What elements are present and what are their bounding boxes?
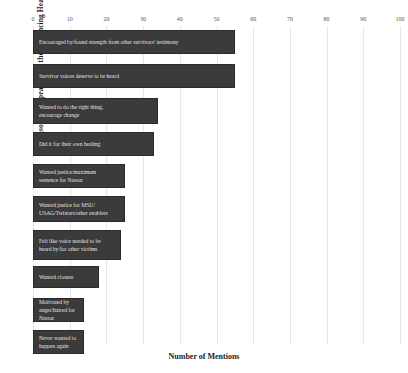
bar-row: Felt like voice needed to be heard by/fo… (33, 230, 400, 260)
bar-label: Wanted justice/maximum sentence for Nass… (34, 168, 99, 184)
gridline-100 (400, 26, 401, 344)
bar-label: Encouraged by/found strength from other … (34, 38, 182, 46)
x-tick-70: 70 (287, 16, 293, 22)
bar-label: Wanted to do the right thing, encourage … (34, 103, 106, 119)
bar-row: Motivated by anger/hatred for Nassar (33, 298, 400, 322)
bar-row: Encouraged by/found strength from other … (33, 30, 400, 54)
bar[interactable]: Wanted justice for MSU/ USAG/Twistars/ot… (33, 196, 125, 222)
bar-label: Did it for their own healing (34, 140, 103, 148)
bar[interactable]: Motivated by anger/hatred for Nassar (33, 298, 84, 322)
bar[interactable]: Survivor voices deserve to be heard (33, 64, 235, 88)
bar-label: Wanted justice for MSU/ USAG/Twistars/ot… (34, 201, 111, 217)
x-tick-90: 90 (360, 16, 366, 22)
bar-row: Wanted to do the right thing, encourage … (33, 98, 400, 124)
bar-row: Wanted justice/maximum sentence for Nass… (33, 164, 400, 188)
x-axis-tick-labels: 0102030405060708090100 (33, 16, 400, 26)
bar[interactable]: Felt like voice needed to be heard by/fo… (33, 230, 121, 260)
x-tick-30: 30 (140, 16, 146, 22)
bar[interactable]: Encouraged by/found strength from other … (33, 30, 235, 54)
x-tick-20: 20 (103, 16, 109, 22)
x-tick-50: 50 (214, 16, 220, 22)
x-tick-40: 40 (177, 16, 183, 22)
x-tick-100: 100 (396, 16, 405, 22)
bar-row: Wanted closure (33, 266, 400, 288)
bar[interactable]: Wanted closure (33, 266, 99, 288)
bar-label: Survivor voices deserve to be heard (34, 72, 122, 80)
bar[interactable]: Never wanted to happen again (33, 330, 84, 354)
bar-row: Wanted justice for MSU/ USAG/Twistars/ot… (33, 196, 400, 222)
bar-row: Did it for their own healing (33, 132, 400, 156)
bar-label: Never wanted to happen again (34, 334, 79, 350)
x-tick-60: 60 (250, 16, 256, 22)
x-tick-10: 10 (67, 16, 73, 22)
bar[interactable]: Wanted justice/maximum sentence for Nass… (33, 164, 125, 188)
bar-label: Felt like voice needed to be heard by/fo… (34, 237, 104, 253)
plot-area: Encouraged by/found strength from other … (33, 26, 400, 344)
x-axis-title: Number of Mentions (0, 352, 408, 361)
bar[interactable]: Wanted to do the right thing, encourage … (33, 98, 158, 124)
bar-row: Survivor voices deserve to be heard (33, 64, 400, 88)
x-tick-80: 80 (324, 16, 330, 22)
bar-row: Never wanted to happen again (33, 330, 400, 354)
bar[interactable]: Did it for their own healing (33, 132, 154, 156)
bar-label: Wanted closure (34, 273, 77, 281)
x-tick-0: 0 (32, 16, 35, 22)
bar-label: Motivated by anger/hatred for Nassar (34, 298, 83, 322)
bar-chart: Reasons for Speaking at the Sentencing H… (0, 0, 408, 373)
